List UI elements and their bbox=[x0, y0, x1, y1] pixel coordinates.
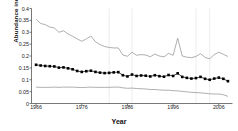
data-point-marker bbox=[172, 75, 175, 78]
data-point-marker bbox=[62, 66, 65, 69]
data-point-marker bbox=[103, 72, 106, 75]
data-point-marker bbox=[190, 77, 193, 80]
data-point-marker bbox=[108, 72, 111, 75]
plot-area bbox=[0, 0, 238, 131]
data-point-marker bbox=[90, 69, 93, 72]
data-point-marker bbox=[53, 65, 56, 68]
data-point-marker bbox=[158, 75, 161, 78]
data-point-marker bbox=[208, 78, 211, 81]
data-point-marker bbox=[71, 68, 74, 71]
data-point-marker bbox=[222, 78, 225, 81]
data-point-marker bbox=[48, 65, 51, 68]
data-point-marker bbox=[227, 80, 230, 83]
data-point-marker bbox=[140, 74, 143, 77]
data-point-marker bbox=[99, 71, 102, 74]
data-point-marker bbox=[154, 74, 157, 77]
data-point-marker bbox=[85, 70, 88, 73]
data-point-marker bbox=[167, 74, 170, 77]
data-point-marker bbox=[135, 75, 138, 78]
data-point-marker bbox=[39, 64, 42, 67]
data-point-marker bbox=[186, 77, 189, 80]
data-point-marker bbox=[199, 76, 202, 79]
data-point-marker bbox=[112, 71, 115, 74]
data-point-marker bbox=[176, 72, 179, 75]
data-point-marker bbox=[181, 76, 184, 79]
data-point-marker bbox=[131, 73, 134, 76]
data-point-marker bbox=[144, 74, 147, 77]
data-point-marker bbox=[94, 71, 97, 74]
data-point-marker bbox=[217, 76, 220, 79]
data-point-marker bbox=[67, 67, 70, 70]
data-point-marker bbox=[35, 63, 38, 66]
data-point-marker bbox=[195, 77, 198, 80]
data-point-marker bbox=[213, 77, 216, 80]
data-point-marker bbox=[204, 78, 207, 81]
data-point-marker bbox=[58, 66, 61, 69]
data-point-marker bbox=[149, 75, 152, 78]
data-point-marker bbox=[44, 65, 47, 68]
data-point-marker bbox=[126, 75, 129, 78]
data-point-marker bbox=[80, 71, 83, 74]
data-point-marker bbox=[76, 70, 79, 73]
data-point-marker bbox=[122, 74, 125, 77]
abundance-index-chart: Abundance index Year 00.050.10.150.20.25… bbox=[0, 0, 238, 131]
data-point-marker bbox=[163, 75, 166, 78]
data-point-marker bbox=[117, 71, 120, 74]
